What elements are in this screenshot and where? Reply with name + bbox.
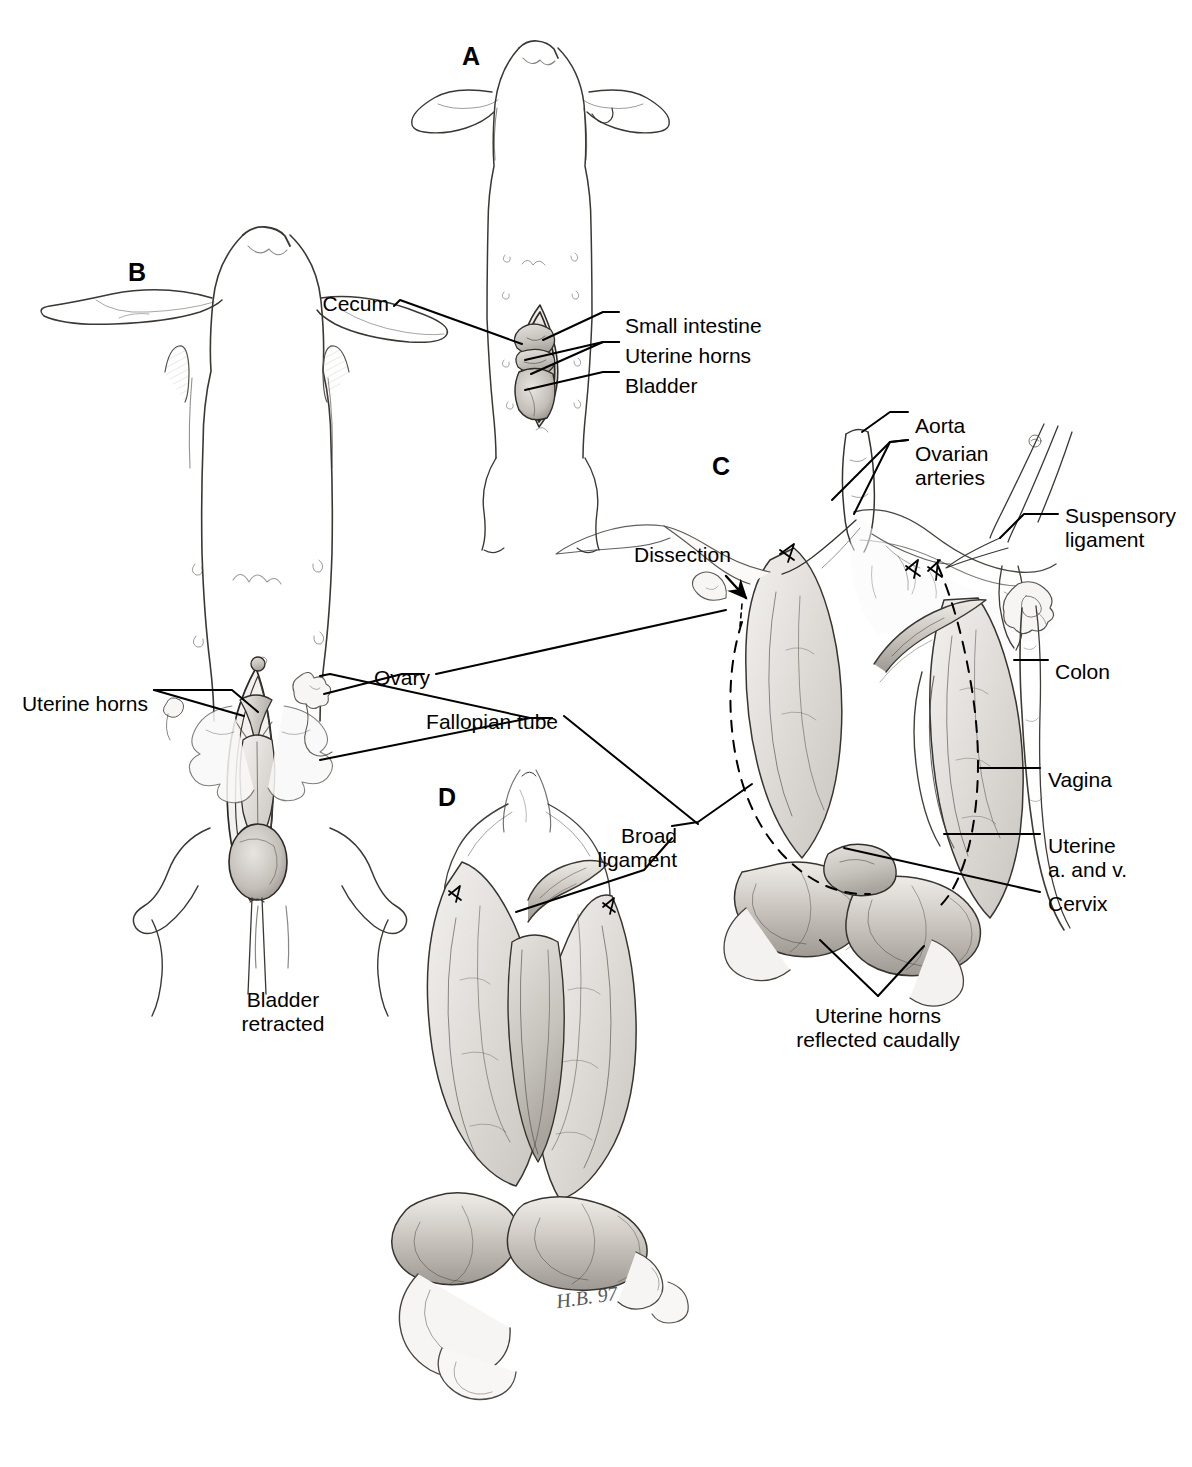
label-ovarian-arteries-line2: arteries [915, 466, 985, 490]
anatomy-plate: A B C D Cecum Small intestine Uterine ho… [0, 0, 1192, 1467]
label-suspensory-ligament-line1: Suspensory [1065, 504, 1176, 528]
panel-c-drawing [556, 424, 1072, 1006]
label-bladder-retracted-line1: Bladder [247, 988, 319, 1012]
label-ovary: Ovary [374, 666, 430, 690]
label-fallopian-tube: Fallopian tube [426, 710, 558, 734]
label-broad-ligament-line1: Broad [621, 824, 677, 848]
label-cervix: Cervix [1048, 892, 1108, 916]
label-colon: Colon [1055, 660, 1110, 684]
plate-artwork [0, 0, 1192, 1467]
panel-letter-d: D [438, 783, 456, 812]
label-uterine-av-line1: Uterine [1048, 834, 1116, 858]
panel-letter-a: A [462, 42, 480, 71]
label-aorta: Aorta [915, 414, 965, 438]
panel-a-drawing [412, 41, 670, 553]
label-horns-reflected-line2: reflected caudally [796, 1028, 959, 1052]
label-vagina: Vagina [1048, 768, 1112, 792]
label-horns-reflected-line1: Uterine horns [815, 1004, 941, 1028]
label-cecum: Cecum [322, 292, 389, 316]
label-suspensory-ligament-line2: ligament [1065, 528, 1144, 552]
panel-letter-b: B [128, 258, 146, 287]
panel-b-drawing [41, 227, 447, 1016]
label-bladder: Bladder [625, 374, 697, 398]
panel-letter-c: C [712, 452, 730, 481]
label-uterine-horns-a: Uterine horns [625, 344, 751, 368]
label-dissection: Dissection [634, 543, 731, 567]
label-ovarian-arteries-line1: Ovarian [915, 442, 989, 466]
label-small-intestine: Small intestine [625, 314, 762, 338]
label-bladder-retracted-line2: retracted [242, 1012, 325, 1036]
label-uterine-horns-b: Uterine horns [22, 692, 148, 716]
label-broad-ligament-line2: ligament [598, 848, 677, 872]
label-uterine-av-line2: a. and v. [1048, 858, 1127, 882]
